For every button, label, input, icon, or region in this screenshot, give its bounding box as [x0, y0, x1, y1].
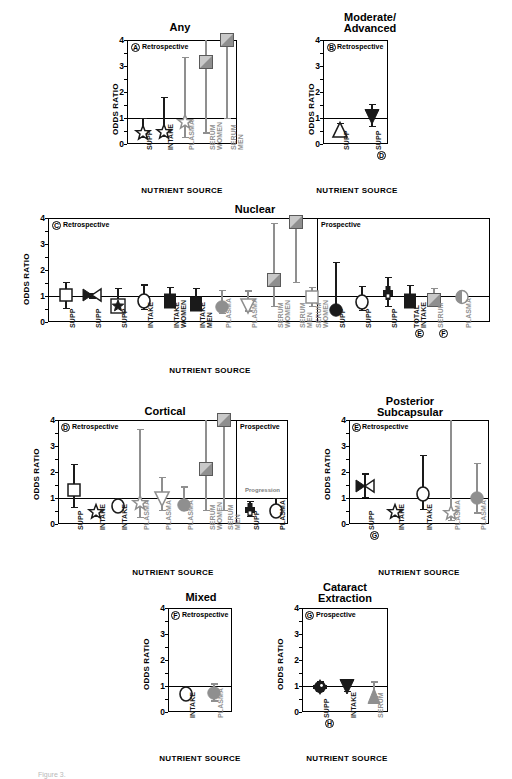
- x-category-label: SERUM: [437, 302, 444, 328]
- panel-nuclear-xlabel: NUTRIENT SOURCE: [150, 366, 270, 375]
- marker-square: [216, 29, 238, 51]
- x-category-label: PLASMA: [165, 500, 172, 530]
- x-category-label: INTAKE: [350, 692, 357, 718]
- panel-cortical-id-badge: D: [61, 423, 70, 432]
- x-category-label: SUPP: [365, 309, 372, 328]
- ytick-4: 4: [33, 214, 45, 222]
- ytick-1: 1: [33, 292, 45, 300]
- error-cap-high: [407, 285, 414, 286]
- x-category-label: SUPP: [368, 511, 375, 530]
- x-category-label: INTAKE: [398, 504, 405, 530]
- x-category-label: SUPP: [375, 131, 382, 150]
- panel-psc-ylabel: ODDS RATIO: [323, 448, 332, 500]
- panel-cortical-section-prospective: Prospective: [240, 423, 280, 430]
- x-category-label: SUPP: [253, 511, 260, 530]
- error-bar: [226, 40, 227, 118]
- panel-any-section-label: Retrospective: [142, 43, 188, 50]
- error-cap-high: [141, 284, 148, 285]
- point-badge: H: [325, 719, 334, 728]
- ytick-3: 3: [308, 62, 320, 70]
- panel-cataract-ylabel: ODDS RATIO: [276, 638, 285, 690]
- x-category-label: SERUM MEN: [230, 124, 245, 150]
- x-category-label: PLASMA: [217, 688, 224, 718]
- error-cap-high: [181, 486, 188, 487]
- x-category-label: INTAKE: [121, 504, 128, 530]
- x-category-label: SERUM WOMEN: [209, 122, 224, 150]
- panel-mixed-ylabel: ODDS RATIO: [142, 638, 151, 690]
- ytick-0: 0: [43, 520, 55, 528]
- panel-psc-section-label: Retrospective: [362, 423, 408, 430]
- ytick-3: 3: [153, 630, 165, 638]
- marker-square-open: [63, 479, 85, 501]
- point-badge: F: [439, 329, 448, 338]
- panel-nuclear-id-badge: C: [52, 221, 61, 230]
- ytick-4: 4: [287, 604, 299, 612]
- x-category-label: INTAKE: [147, 302, 154, 328]
- ytick-0: 0: [287, 708, 299, 716]
- ytick-3: 3: [43, 442, 55, 450]
- error-cap-high: [182, 57, 189, 58]
- panel-cortical-progression-label: Progression: [245, 487, 280, 493]
- ytick-1: 1: [334, 494, 346, 502]
- error-cap-high: [333, 262, 340, 263]
- error-cap-high: [159, 477, 166, 478]
- error-cap-low: [224, 118, 231, 119]
- error-cap-high: [71, 464, 78, 465]
- x-category-label: SUPP: [95, 309, 102, 328]
- panel-moderate-title: Moderate/ Advanced: [320, 12, 420, 34]
- x-category-label: INTAKE: [426, 504, 433, 530]
- error-bar: [223, 420, 224, 510]
- ytick-0: 0: [308, 140, 320, 148]
- error-cap-low: [293, 282, 300, 283]
- x-category-label: SUPP: [343, 131, 350, 150]
- marker-cluster: [309, 676, 331, 698]
- point-badge: E: [415, 329, 424, 338]
- marker-square: [213, 409, 235, 431]
- x-category-label: INTAKE: [189, 692, 196, 718]
- panel-mixed-section-label: Retrospective: [182, 611, 228, 618]
- x-category-label: PLASMA: [480, 500, 487, 530]
- marker-square-open: [55, 284, 77, 306]
- panel-cortical-section-retrospective: Retrospective: [72, 423, 118, 430]
- x-category-label: PLASMA: [143, 500, 150, 530]
- x-category-label: SERUM WOMEN: [209, 502, 224, 530]
- marker-bowtie: [81, 284, 103, 306]
- ytick-1: 1: [287, 682, 299, 690]
- ytick-4: 4: [112, 36, 124, 44]
- panel-cataract-id-badge: G: [305, 611, 314, 620]
- figure-caption: Figure 3.: [38, 771, 66, 778]
- panel-cortical-ylabel: ODDS RATIO: [32, 448, 41, 500]
- panel-nuclear-section-prospective: Prospective: [321, 221, 361, 228]
- marker-triangle-down-filled: [361, 106, 383, 128]
- x-category-label: SERUM: [377, 692, 384, 718]
- panel-moderate-id-badge: B: [327, 43, 336, 52]
- ytick-0: 0: [334, 520, 346, 528]
- x-category-label: PLASMA: [251, 298, 258, 328]
- error-cap-high: [385, 277, 392, 278]
- ytick-2: 2: [153, 656, 165, 664]
- ytick-4: 4: [308, 36, 320, 44]
- x-category-label: PLASMA: [188, 120, 195, 150]
- error-cap-high: [271, 223, 278, 224]
- ytick-3: 3: [33, 240, 45, 248]
- ytick-1: 1: [153, 682, 165, 690]
- ytick-4: 4: [334, 416, 346, 424]
- ytick-3: 3: [334, 442, 346, 450]
- x-category-label: SUPP: [339, 309, 346, 328]
- ytick-0: 0: [153, 708, 165, 716]
- panel-nuclear-section-retrospective: Retrospective: [63, 221, 109, 228]
- ytick-2: 2: [334, 468, 346, 476]
- panel-any-xlabel: NUTRIENT SOURCE: [127, 186, 237, 195]
- panel-moderate-section-label: Retrospective: [337, 43, 383, 50]
- x-category-label: SUPP: [391, 309, 398, 328]
- error-cap-high: [161, 97, 168, 98]
- panel-nuclear-ylabel: ODDS RATIO: [22, 253, 31, 305]
- ytick-1: 1: [43, 494, 55, 502]
- x-category-label: PLASMA: [187, 500, 194, 530]
- panel-cataract-xlabel: NUTRIENT SOURCE: [287, 754, 407, 763]
- ytick-2: 2: [112, 88, 124, 96]
- ytick-1: 1: [308, 114, 320, 122]
- ytick-1: 1: [112, 114, 124, 122]
- error-cap-high: [371, 681, 378, 682]
- ytick-4: 4: [153, 604, 165, 612]
